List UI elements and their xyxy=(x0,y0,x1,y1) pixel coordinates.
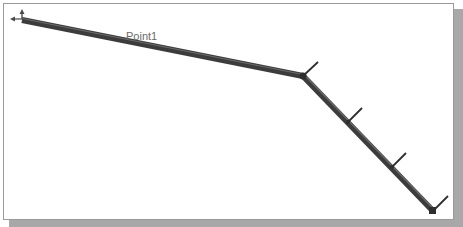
normal-marker-icon xyxy=(348,108,362,122)
beam-segment-2[interactable] xyxy=(303,75,435,211)
normal-marker-icon xyxy=(392,153,406,167)
normal-marker-icon xyxy=(303,62,318,76)
model-canvas[interactable]: Point1 xyxy=(0,0,463,227)
node-icon xyxy=(346,120,350,124)
beam-segment-1[interactable] xyxy=(22,19,303,77)
node-icon xyxy=(390,165,394,169)
point-label: Point1 xyxy=(126,30,157,42)
end-node-icon[interactable] xyxy=(429,207,436,214)
